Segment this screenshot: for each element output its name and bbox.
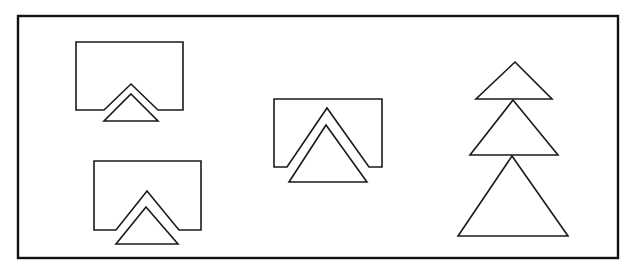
triangle bbox=[289, 125, 367, 182]
figure-notched-rect-large-triangle bbox=[274, 99, 382, 182]
notched-rectangle bbox=[76, 42, 183, 110]
triangle-middle bbox=[470, 100, 558, 155]
triangle-top bbox=[476, 62, 552, 99]
figure-notched-rect-small-triangle bbox=[76, 42, 183, 121]
triangle-bottom bbox=[458, 156, 568, 236]
notched-rectangle bbox=[94, 161, 201, 230]
triangle bbox=[116, 207, 178, 244]
diagram-canvas bbox=[0, 0, 636, 270]
triangle bbox=[104, 94, 158, 121]
figure-stacked-triangles bbox=[458, 62, 568, 236]
figure-notched-rect-medium-triangle bbox=[94, 161, 201, 244]
notched-rectangle bbox=[274, 99, 382, 167]
